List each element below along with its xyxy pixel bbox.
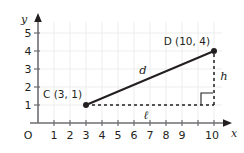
y-tick-label-5: 5 — [25, 27, 32, 40]
x-tick-label-1: 1 — [51, 129, 58, 142]
x-axis-label: x — [231, 127, 238, 140]
y-tick-label-3: 3 — [25, 63, 32, 76]
height-label: h — [220, 69, 227, 83]
x-tick-label-5: 5 — [115, 129, 122, 142]
x-tick-label-4: 4 — [99, 129, 106, 142]
point-c-label: C (3, 1) — [43, 88, 82, 100]
x-tick-label-8: 8 — [163, 129, 170, 142]
length-label: ℓ — [144, 108, 149, 122]
x-tick-label-6: 6 — [131, 129, 138, 142]
y-axis-ticks — [34, 33, 40, 105]
y-tick-label-4: 4 — [25, 45, 32, 58]
distance-label: d — [139, 63, 146, 77]
point-c-marker — [83, 102, 89, 108]
coordinate-plane-figure: y x O 1 2 3 4 5 1 2 3 4 5 6 7 8 9 10 C (… — [0, 0, 244, 153]
point-d-marker — [211, 48, 217, 54]
y-axis-label: y — [20, 13, 28, 26]
y-tick-label-2: 2 — [25, 81, 32, 94]
y-axis — [34, 13, 42, 123]
origin-label: O — [24, 129, 33, 142]
y-tick-label-1: 1 — [25, 99, 32, 112]
diagram-canvas: y x O 1 2 3 4 5 1 2 3 4 5 6 7 8 9 10 C (… — [0, 0, 244, 153]
x-tick-label-9: 9 — [179, 129, 186, 142]
x-tick-label-2: 2 — [67, 129, 74, 142]
point-d-label: D (10, 4) — [164, 35, 210, 47]
x-axis — [30, 119, 232, 127]
right-angle-marker-icon — [201, 93, 213, 105]
x-tick-label-10: 10 — [205, 129, 219, 142]
x-tick-label-3: 3 — [83, 129, 90, 142]
x-tick-label-7: 7 — [147, 129, 154, 142]
